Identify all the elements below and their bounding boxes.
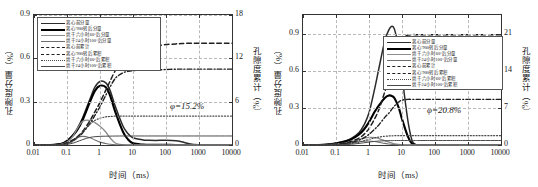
legend-item-label: 烘干六小时60°后累积 <box>412 76 456 82</box>
axis-tick-mark <box>232 142 233 145</box>
legend-item-label: 离心′900转后累积 <box>66 51 102 57</box>
legend-line-swatch <box>40 20 66 26</box>
y-tick-label-right: 0 <box>504 139 530 148</box>
axis-tick-mark <box>100 142 101 145</box>
y-tick-label-left: 0 <box>273 139 299 148</box>
axis-tick-mark <box>402 142 403 145</box>
legend-line-swatch <box>40 38 66 44</box>
axis-tick-mark <box>34 102 37 103</box>
axis-tick-mark <box>303 15 304 18</box>
axis-tick-mark <box>303 34 306 35</box>
axis-tick-mark <box>498 108 501 109</box>
gridline-vertical <box>199 15 200 145</box>
x-axis-label: 时间（ms） <box>341 168 461 180</box>
chart-panel-right: 0.010.111010010001000000.30.60.9071421 孔… <box>269 0 538 187</box>
axis-tick-mark <box>229 58 232 59</box>
legend-item-label: 烘干24小时100°后累积 <box>66 63 112 69</box>
y-axis-label-left: 孔隙度分量（%） <box>273 30 285 130</box>
axis-tick-mark <box>336 15 337 18</box>
y-tick-label-right: 18 <box>235 9 261 18</box>
porosity-annotation: φ=15.2% <box>170 101 204 111</box>
axis-tick-mark <box>232 15 233 18</box>
legend-line-swatch <box>40 57 66 63</box>
legend-item-label: 离心前分量 <box>412 39 436 45</box>
legend-line-swatch <box>386 57 412 63</box>
axis-tick-mark <box>199 15 200 18</box>
axis-tick-mark <box>34 15 37 16</box>
legend-line-swatch <box>386 39 412 45</box>
y-axis-label-right: 孔隙度累计（%） <box>519 34 531 130</box>
legend-left: 离心前分量离心′900转后分量烘干六小时60°后分量烘干24小时100°后分量离… <box>37 17 161 71</box>
legend-item-label: 离心前累计 <box>66 45 90 51</box>
legend-right: 离心前分量离心′900转后分量烘干六小时60°后分量烘干24小时100°后分量离… <box>383 36 503 90</box>
legend-line-swatch <box>386 45 412 51</box>
axis-tick-mark <box>34 145 37 146</box>
axis-tick-mark <box>501 142 502 145</box>
legend-line-swatch <box>40 26 66 32</box>
axis-tick-mark <box>435 142 436 145</box>
legend-line-swatch <box>40 63 66 69</box>
legend-item-label: 离心′900转后分量 <box>412 45 448 51</box>
gridline-vertical <box>336 15 337 145</box>
figure-nmr-porosity-distribution: 0.010.111010010001000000.30.60.9061218 孔… <box>0 0 538 187</box>
legend-line-swatch <box>386 70 412 76</box>
legend-line-swatch <box>386 76 412 82</box>
axis-tick-mark <box>468 142 469 145</box>
axis-tick-mark <box>166 142 167 145</box>
x-tick-label: 10000 <box>211 148 251 157</box>
axis-tick-mark <box>498 145 501 146</box>
axis-tick-mark <box>336 142 337 145</box>
axis-tick-mark <box>402 15 403 18</box>
axis-tick-mark <box>303 108 306 109</box>
legend-line-swatch <box>386 63 412 69</box>
axis-tick-mark <box>501 15 502 18</box>
axis-tick-mark <box>229 145 232 146</box>
axis-tick-mark <box>133 142 134 145</box>
axis-tick-mark <box>369 15 370 18</box>
gridline-vertical <box>166 15 167 145</box>
legend-item-label: 离心′900转后累积 <box>412 70 448 76</box>
legend-item: 烘干24小时100°后累积 <box>40 63 158 69</box>
legend-line-swatch <box>386 51 412 57</box>
legend-item-label: 烘干24小时100°后累积 <box>412 82 458 88</box>
x-tick-label: 10000 <box>480 148 520 157</box>
axis-tick-mark <box>199 142 200 145</box>
axis-tick-mark <box>468 15 469 18</box>
axis-tick-mark <box>435 15 436 18</box>
y-tick-label-left: 0 <box>4 139 30 148</box>
legend-item-label: 离心前累计 <box>412 64 436 70</box>
axis-tick-mark <box>498 34 501 35</box>
legend-item-label: 烘干六小时60°后累积 <box>66 57 110 63</box>
y-tick-label-right: 0 <box>235 139 261 148</box>
axis-tick-mark <box>303 145 306 146</box>
axis-tick-mark <box>229 102 232 103</box>
legend-line-swatch <box>40 44 66 50</box>
y-axis-label-left: 孔隙度分量（%） <box>4 30 16 130</box>
legend-item-label: 离心′900转后分量 <box>66 26 102 32</box>
y-axis-label-right: 孔隙度累计（%） <box>250 34 262 130</box>
axis-tick-mark <box>303 71 306 72</box>
legend-item-label: 离心前分量 <box>66 20 90 26</box>
chart-panel-left: 0.010.111010010001000000.30.60.9061218 孔… <box>0 0 269 187</box>
gridline-vertical <box>369 15 370 145</box>
axis-tick-mark <box>166 15 167 18</box>
legend-line-swatch <box>40 51 66 57</box>
y-tick-label-left: 0.9 <box>4 9 30 18</box>
axis-tick-mark <box>369 142 370 145</box>
axis-tick-mark <box>229 15 232 16</box>
legend-line-swatch <box>40 32 66 38</box>
axis-tick-mark <box>67 142 68 145</box>
x-axis-label: 时间（ms） <box>72 168 192 180</box>
legend-item: 烘干24小时100°后累积 <box>386 82 500 88</box>
legend-line-swatch <box>386 82 412 88</box>
porosity-annotation: φ=20.8% <box>427 105 461 115</box>
